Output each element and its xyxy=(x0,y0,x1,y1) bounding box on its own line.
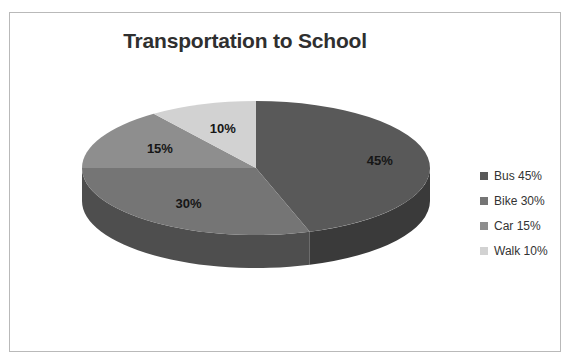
legend: Bus 45% Bike 30% Car 15% Walk 10% xyxy=(480,163,562,263)
legend-label-bike: Bike 30% xyxy=(494,194,545,208)
legend-label-bus: Bus 45% xyxy=(494,169,542,183)
legend-item-bike[interactable]: Bike 30% xyxy=(480,188,562,213)
page-title: Transportation to School xyxy=(10,29,480,53)
legend-label-walk: Walk 10% xyxy=(494,244,548,258)
pie-label-walk: 10% xyxy=(210,121,236,136)
legend-item-bus[interactable]: Bus 45% xyxy=(480,163,562,188)
legend-swatch-car-icon xyxy=(480,222,488,230)
pie-chart: 45% 30% 15% 10% xyxy=(40,73,450,313)
legend-item-walk[interactable]: Walk 10% xyxy=(480,238,562,263)
chart-frame: Transportation to School 45% 30% 15% 10%… xyxy=(9,12,561,352)
legend-swatch-bus-icon xyxy=(480,172,488,180)
pie-chart-svg: 45% 30% 15% 10% xyxy=(40,73,450,313)
legend-item-car[interactable]: Car 15% xyxy=(480,213,562,238)
legend-swatch-walk-icon xyxy=(480,247,488,255)
pie-top-face xyxy=(82,101,430,235)
pie-label-bus: 45% xyxy=(367,153,393,168)
pie-label-bike: 30% xyxy=(175,196,201,211)
pie-label-car: 15% xyxy=(147,141,173,156)
legend-swatch-bike-icon xyxy=(480,197,488,205)
legend-label-car: Car 15% xyxy=(494,219,541,233)
